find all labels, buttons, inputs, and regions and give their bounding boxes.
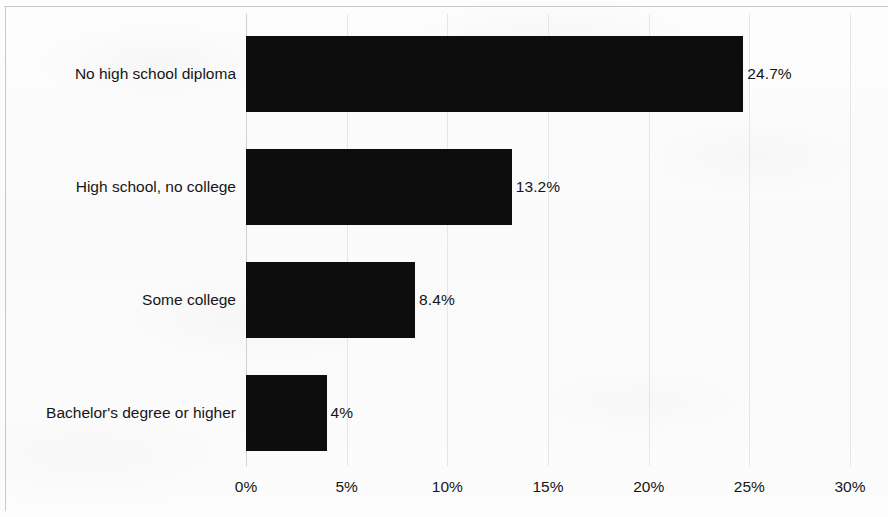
bar-value-label: 8.4% [415,291,455,309]
bar-row: 13.2% [246,149,850,225]
x-tick-label: 5% [335,478,357,496]
bar [246,149,512,225]
bar-row: 4% [246,375,850,451]
bar-value-label: 4% [327,404,354,422]
x-tick-label: 25% [734,478,765,496]
x-tick-label: 10% [432,478,463,496]
bar-value-label: 13.2% [512,178,560,196]
category-label: High school, no college [76,149,240,225]
bar [246,36,743,112]
category-label: Some college [142,262,240,338]
category-label: No high school diploma [75,36,240,112]
plot-area: 24.7%13.2%8.4%4% [246,14,850,466]
bar-row: 24.7% [246,36,850,112]
x-tick-label: 0% [235,478,257,496]
page-frame-top-border [4,6,888,7]
bar-value-label: 24.7% [743,65,791,83]
x-axis-tick-labels: 0%5%10%15%20%25%30% [246,478,850,506]
x-tick-label: 20% [633,478,664,496]
bar [246,262,415,338]
category-axis-labels: No high school diplomaHigh school, no co… [0,14,240,466]
bar-chart: No high school diplomaHigh school, no co… [0,0,888,517]
bar-row: 8.4% [246,262,850,338]
bar [246,375,327,451]
x-tick-label: 30% [834,478,865,496]
gridline-30% [850,14,851,466]
category-label: Bachelor's degree or higher [46,375,240,451]
x-tick-label: 15% [532,478,563,496]
